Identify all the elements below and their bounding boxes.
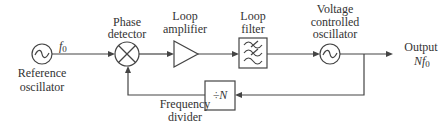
vco-label-line3: oscillator xyxy=(313,27,358,41)
arrow-head-icon xyxy=(313,51,320,57)
output-label: Output xyxy=(404,40,438,54)
loop-filter-label-line1: Loop xyxy=(240,9,265,23)
frequency-divider-label-line2: divider xyxy=(168,110,202,124)
arrow-head-icon xyxy=(235,92,242,98)
arrow-head-icon xyxy=(125,66,131,73)
output-frequency-label: Nf0 xyxy=(413,54,430,69)
phase-detector: Phase detector xyxy=(108,15,147,66)
arrow-head-icon xyxy=(167,51,174,57)
reference-oscillator-label-line1: Reference xyxy=(18,66,67,80)
divide-by-n-symbol: ÷N xyxy=(213,88,229,102)
arrow-head-icon xyxy=(108,51,115,57)
arrow-head-icon xyxy=(386,51,393,57)
reference-oscillator-label-line2: oscillator xyxy=(20,80,65,94)
loop-filter-label-line2: filter xyxy=(241,22,264,36)
connector-divider-to-pd xyxy=(128,72,205,95)
frequency-divider: ÷N Frequency divider xyxy=(160,81,235,124)
phase-detector-label-line2: detector xyxy=(108,27,147,41)
loop-amplifier: Loop amplifier xyxy=(163,9,207,67)
frequency-divider-label-line1: Frequency xyxy=(160,97,211,111)
loop-amplifier-label-line2: amplifier xyxy=(163,22,207,36)
reference-frequency-label: f0 xyxy=(59,39,67,54)
vco-label-line1: Voltage xyxy=(317,2,353,16)
pll-block-diagram: Reference oscillator f0 Phase detector L… xyxy=(0,0,446,127)
loop-amplifier-label-line1: Loop xyxy=(172,9,197,23)
triangle-amplifier-icon xyxy=(174,41,198,67)
arrow-head-icon xyxy=(232,51,239,57)
loop-filter: Loop filter xyxy=(239,9,267,68)
